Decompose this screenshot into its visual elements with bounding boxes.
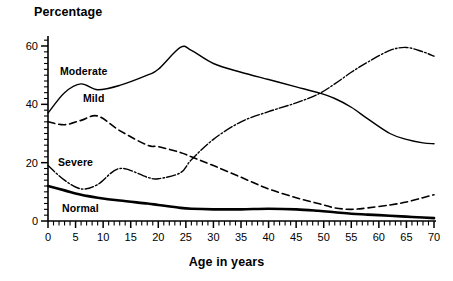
x-axis-tick-label: 35 — [235, 231, 247, 243]
axis-lines — [48, 36, 436, 221]
x-axis-tick-label: 50 — [318, 231, 330, 243]
chart-plot-area — [0, 0, 453, 281]
x-axis-tick-label: 20 — [152, 231, 164, 243]
series-line-normal — [48, 186, 434, 218]
x-axis-tick-label: 55 — [345, 231, 357, 243]
x-axis-tick-label: 30 — [207, 231, 219, 243]
series-label-mild: Mild — [83, 92, 104, 104]
x-axis-tick-label: 10 — [97, 231, 109, 243]
y-axis-tick-label: 60 — [14, 40, 38, 52]
series-line-moderate — [48, 46, 434, 144]
y-axis-title: Percentage — [34, 5, 102, 19]
y-axis-tick-label: 40 — [14, 98, 38, 110]
series-label-severe: Severe — [58, 156, 93, 168]
x-axis-ticks — [48, 221, 434, 228]
chart-figure: Percentage 6040200 051015202530354045505… — [0, 0, 453, 281]
x-axis-tick-label: 60 — [373, 231, 385, 243]
y-axis-ticks — [41, 40, 48, 221]
x-axis-tick-label: 25 — [180, 231, 192, 243]
y-axis-tick-label: 20 — [14, 157, 38, 169]
x-axis-tick-label: 65 — [400, 231, 412, 243]
x-axis-tick-label: 70 — [428, 231, 440, 243]
x-axis-tick-label: 45 — [290, 231, 302, 243]
x-axis-tick-label: 15 — [125, 231, 137, 243]
series-label-moderate: Moderate — [60, 65, 107, 77]
x-axis-title: Age in years — [0, 255, 453, 269]
series-label-normal: Normal — [62, 202, 99, 214]
x-axis-tick-label: 40 — [262, 231, 274, 243]
series-line-mild — [48, 116, 434, 210]
y-axis-tick-label: 0 — [14, 215, 38, 227]
x-axis-tick-label: 0 — [45, 231, 51, 243]
x-axis-tick-label: 5 — [73, 231, 79, 243]
